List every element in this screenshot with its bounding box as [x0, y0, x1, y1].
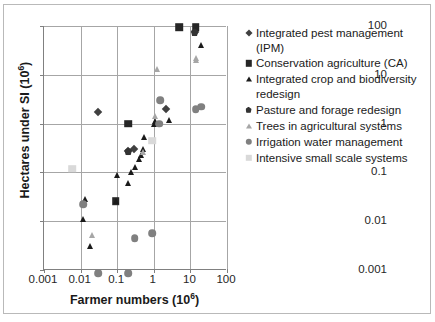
y-axis-tick [40, 221, 44, 222]
legend-item[interactable]: Integrated crop and biodiversity redesig… [243, 72, 423, 101]
legend-item-label: Intensive small scale systems [256, 151, 423, 166]
gridline-vertical [117, 26, 118, 269]
legend-swatch-shape [245, 107, 251, 113]
y-axis-tick [40, 172, 44, 173]
legend-marker-square-icon [243, 56, 254, 71]
legend-item[interactable]: Pasture and forage redesign [243, 103, 423, 118]
x-tick-label: 0.001 [29, 274, 58, 286]
data-point [94, 270, 102, 278]
legend-swatch-shape [245, 155, 251, 161]
x-axis-title: Farmer numbers (106) [43, 291, 226, 307]
legend-item[interactable]: Intensive small scale systems [243, 151, 423, 166]
plot-background [44, 26, 226, 269]
legend-swatch-shape [246, 77, 252, 82]
y-axis-title-tail: ) [18, 62, 32, 66]
legend-marker-triangle-icon [243, 72, 254, 87]
gridline-horizontal [44, 26, 226, 27]
legend-marker-triangle-icon [243, 119, 254, 134]
y-tick-label: 0.001 [358, 264, 387, 276]
legend-item-label: Integrated crop and biodiversity redesig… [256, 72, 423, 101]
legend-item-label: Conservation agriculture (CA) [256, 56, 423, 71]
scatter-chart-figure: Hectares under SI (106) Farmer numbers (… [0, 0, 435, 322]
y-axis-title: Hectares under SI (106) [16, 30, 32, 230]
legend-marker-circle-icon [243, 135, 254, 150]
legend-item-label: Irrigation water management [256, 135, 423, 150]
legend-item[interactable]: Integrated pest management (IPM) [243, 26, 423, 55]
legend-marker-pentagon-icon [243, 103, 254, 118]
legend-swatch-shape [245, 60, 251, 66]
gridline-horizontal [44, 172, 226, 173]
legend-item[interactable]: Trees in agricultural systems [243, 119, 423, 134]
gridline-vertical [81, 26, 82, 269]
x-tick-label: 0.1 [108, 274, 124, 286]
gridline-vertical [154, 26, 155, 269]
legend-swatch-shape [246, 123, 252, 128]
legend-marker-diamond-icon [243, 26, 254, 41]
legend-item-label: Integrated pest management (IPM) [256, 26, 423, 55]
gridline-horizontal [44, 124, 226, 125]
data-point [124, 270, 132, 278]
y-tick-label: 0.1 [371, 166, 387, 178]
gridline-horizontal [44, 75, 226, 76]
y-tick-label: 0.01 [365, 215, 387, 227]
legend-item-label: Trees in agricultural systems [256, 119, 423, 134]
legend-item[interactable]: Irrigation water management [243, 135, 423, 150]
chart-legend: Integrated pest management (IPM)Conserva… [243, 26, 423, 167]
x-tick-label: 0.01 [68, 274, 90, 286]
legend-item[interactable]: Conservation agriculture (CA) [243, 56, 423, 71]
legend-swatch-shape [245, 139, 251, 145]
y-axis-tick [40, 26, 44, 27]
gridline-vertical [227, 26, 228, 269]
gridline-vertical [190, 26, 191, 269]
x-axis-title-tail: ) [195, 293, 199, 307]
y-axis-title-exponent: 6 [16, 66, 26, 71]
y-axis-title-text: Hectares under SI (10 [18, 71, 32, 199]
x-tick-label: 100 [216, 274, 235, 286]
y-axis-tick [40, 124, 44, 125]
plot-area [43, 26, 226, 270]
x-axis-title-text: Farmer numbers (10 [70, 293, 190, 307]
legend-marker-square-icon [243, 151, 254, 166]
legend-swatch-shape [245, 29, 252, 36]
legend-item-label: Pasture and forage redesign [256, 103, 423, 118]
gridline-horizontal [44, 221, 226, 222]
y-axis-tick [40, 75, 44, 76]
x-tick-label: 10 [183, 274, 196, 286]
x-tick-label: 1 [150, 274, 156, 286]
